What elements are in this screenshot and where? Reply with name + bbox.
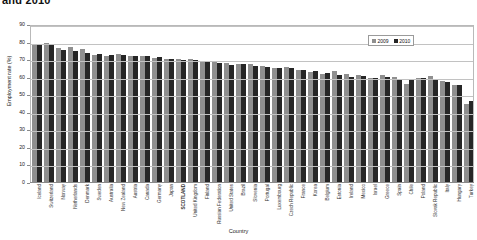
bar-group (164, 26, 174, 182)
legend-item-2009: 2009 (372, 38, 389, 44)
y-tick-label: 50 (19, 93, 25, 98)
x-tick-label: Ireland (350, 184, 355, 198)
bar (229, 65, 234, 182)
x-tick-label: Slovenia (254, 184, 259, 202)
x-tick-label: Turkey (470, 184, 475, 198)
bar-group (212, 26, 222, 182)
x-tick-label: Spain (398, 184, 403, 196)
bar-group (140, 26, 150, 182)
gridline (31, 96, 473, 97)
bar (277, 68, 282, 182)
bar (457, 85, 462, 182)
bar-group (128, 26, 138, 182)
x-tick-label: Chile (410, 184, 415, 194)
x-tick-label: Finland (206, 184, 211, 199)
bar (157, 57, 162, 182)
bar-group (92, 26, 102, 182)
bar-group (176, 26, 186, 182)
bar-group (392, 26, 402, 182)
y-tick-label: 10 (19, 163, 25, 168)
bar-group (380, 26, 390, 182)
x-tick-label: Italy (446, 184, 451, 192)
x-tick-label: Belgium (326, 184, 331, 201)
bar-group (80, 26, 90, 182)
bar-group (344, 26, 354, 182)
y-axis-title: Employment rate (%) (6, 36, 12, 126)
legend-swatch-icon (372, 39, 376, 43)
bar (313, 71, 318, 182)
chart-root: and 2010 Employment rate (%) 01020304050… (0, 0, 477, 240)
bar-group (368, 26, 378, 182)
x-tick-label: New Zealand (122, 184, 127, 211)
bar (73, 51, 78, 182)
y-tick-label: 40 (19, 110, 25, 115)
bar-group (200, 26, 210, 182)
legend: 2009 2010 (368, 35, 414, 46)
x-tick-label: Switzerland (50, 184, 55, 208)
bar-group (284, 26, 294, 182)
x-axis-labels: IcelandSwitzerlandNorwayNetherlandsDenma… (30, 184, 474, 230)
x-tick-label: Czech Republic (290, 184, 295, 216)
bar-group (260, 26, 270, 182)
x-tick-label: Luxembourg (278, 184, 283, 210)
legend-label: 2010 (399, 38, 410, 44)
y-tick-label: 70 (19, 57, 25, 62)
y-tick-label: 90 (19, 22, 25, 27)
x-axis-title: Country (0, 228, 477, 234)
x-tick-label: Norway (62, 184, 67, 200)
bar-group (44, 26, 54, 182)
bar-group (272, 26, 282, 182)
bar-group (320, 26, 330, 182)
x-tick-label: Poland (422, 184, 427, 198)
x-tick-label: Iceland (38, 184, 43, 199)
bar (289, 68, 294, 182)
gridline (31, 166, 473, 167)
y-axis: Employment rate (%) 0102030405060708090 (0, 0, 30, 190)
gridline (31, 114, 473, 115)
y-tick-label: 30 (19, 128, 25, 133)
gridline (31, 131, 473, 132)
bar (241, 64, 246, 182)
bar (253, 66, 258, 182)
gridline (31, 61, 473, 62)
bar-group (248, 26, 258, 182)
bar-group (116, 26, 126, 182)
legend-label: 2009 (378, 38, 389, 44)
x-tick-label: Denmark (86, 184, 91, 203)
bar (109, 55, 114, 182)
y-tick-label: 20 (19, 145, 25, 150)
legend-item-2010: 2010 (394, 38, 411, 44)
bar (205, 62, 210, 182)
bar (169, 59, 174, 182)
gridline (31, 149, 473, 150)
x-tick-label: United Kingdom (194, 184, 199, 217)
x-tick-label: Australia (110, 184, 115, 202)
bar-group (236, 26, 246, 182)
bar (121, 55, 126, 182)
bar (97, 54, 102, 182)
x-tick-label: Netherlands (74, 184, 79, 209)
x-tick-label: United States (230, 184, 235, 212)
x-tick-label: Mexico (362, 184, 367, 199)
bar-group (56, 26, 66, 182)
bar-group (152, 26, 162, 182)
bar-group (416, 26, 426, 182)
bar-group (224, 26, 234, 182)
x-tick-label: Israel (374, 184, 379, 195)
x-tick-label: Greece (386, 184, 391, 199)
y-tick-label: 80 (19, 40, 25, 45)
plot-area (30, 25, 474, 183)
bar (265, 67, 270, 182)
x-tick-label: France (302, 184, 307, 198)
bar (301, 70, 306, 182)
bar-group (332, 26, 342, 182)
bar (145, 56, 150, 182)
gridline (31, 79, 473, 80)
x-tick-label: Germany (158, 184, 163, 203)
bar (133, 56, 138, 182)
bar-group (464, 26, 474, 182)
x-tick-label: Portugal (266, 184, 271, 201)
bar-group (452, 26, 462, 182)
y-tick-label: 60 (19, 75, 25, 80)
bars-layer (31, 26, 473, 182)
